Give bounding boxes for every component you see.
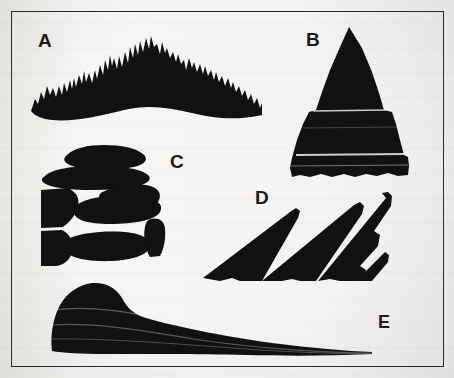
figure-root: A B C D E: [0, 0, 454, 378]
figure-border-frame: [11, 11, 444, 367]
